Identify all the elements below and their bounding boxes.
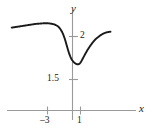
y-tick-label-1-5: 1.5 [47, 74, 59, 84]
x-tick-label-neg3: –3 [40, 116, 50, 126]
y-tick-label-2: 2 [80, 31, 85, 41]
y-axis-label: y [71, 3, 76, 14]
x-tick-label-1: 1 [77, 116, 82, 126]
chart-figure: y x 2 1.5 –3 1 [0, 0, 154, 135]
x-axis-label: x [139, 103, 144, 114]
data-curve [12, 23, 111, 64]
